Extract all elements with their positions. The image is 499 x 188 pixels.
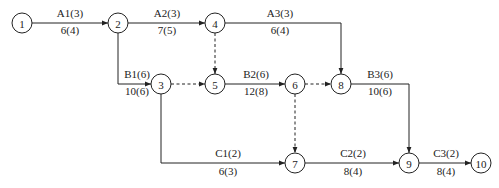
activity-label-a1: A1(3) [57,7,84,20]
node-label: 6 [292,79,298,91]
activity-duration-c1: 6(3) [219,165,238,178]
activity-duration-c3: 8(4) [437,165,456,178]
activity-label-c1: C1(2) [215,147,241,160]
event-node-6: 6 [285,74,305,94]
node-label: 2 [115,18,121,30]
node-label: 4 [212,18,218,30]
activity-duration-b3: 10(6) [368,85,392,98]
node-label: 3 [158,79,164,91]
event-node-9: 9 [399,153,419,173]
activity-label-c2: C2(2) [340,147,366,160]
activity-label-a3: A3(3) [267,7,294,20]
node-label: 5 [212,79,218,91]
event-node-10: 10 [471,153,491,173]
event-node-4: 4 [205,13,225,33]
activity-label-b2: B2(6) [243,68,269,81]
activity-duration-a3: 6(4) [271,24,290,37]
activity-label-c3: C3(2) [433,147,459,160]
network-diagram: A1(3)6(4)A2(3)7(5)A3(3)6(4)B1(6)10(6)B2(… [0,0,499,188]
event-node-5: 5 [205,74,225,94]
node-label: 10 [476,158,488,170]
event-node-8: 8 [331,74,351,94]
activity-label-a2: A2(3) [154,7,181,20]
event-node-1: 1 [12,13,32,33]
activity-label-b3: B3(6) [367,68,393,81]
activity-duration-a1: 6(4) [61,24,80,37]
activity-duration-a2: 7(5) [158,24,177,37]
event-node-2: 2 [108,13,128,33]
node-label: 8 [338,79,344,91]
activity-label-b1: B1(6) [124,68,150,81]
node-label: 1 [19,18,25,30]
event-node-7: 7 [285,153,305,173]
activity-duration-c2: 8(4) [344,165,363,178]
event-node-3: 3 [151,74,171,94]
activity-duration-b2: 12(8) [244,85,268,98]
activity-duration-b1: 10(6) [125,85,149,98]
node-label: 7 [292,158,298,170]
node-label: 9 [406,158,412,170]
